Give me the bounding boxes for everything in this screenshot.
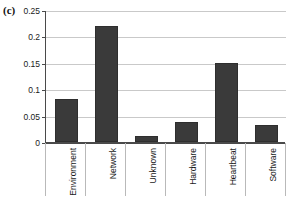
y-tick-label: 0 bbox=[35, 139, 40, 148]
y-tick-label: 0.2 bbox=[28, 33, 40, 42]
gridline bbox=[46, 11, 286, 12]
y-tick-label: 0.05 bbox=[23, 112, 40, 121]
y-tick-label: 0.1 bbox=[28, 86, 40, 95]
y-tick-mark bbox=[42, 37, 46, 38]
x-tick-label: Network bbox=[109, 148, 118, 179]
x-tick-label: Software bbox=[269, 148, 278, 182]
category-separator bbox=[165, 143, 166, 196]
bar bbox=[55, 99, 78, 142]
y-tick-mark bbox=[42, 117, 46, 118]
x-tick-label: Environment bbox=[69, 148, 78, 196]
category-separator bbox=[245, 143, 246, 196]
y-tick-mark bbox=[42, 11, 46, 12]
x-tick-label: Unknown bbox=[149, 148, 158, 183]
y-tick-mark bbox=[42, 90, 46, 91]
y-tick-label: 0.25 bbox=[23, 7, 40, 16]
bar bbox=[135, 136, 158, 142]
gridline bbox=[46, 117, 286, 118]
gridline bbox=[46, 64, 286, 65]
plot-area: 00.050.10.150.20.25 bbox=[45, 11, 285, 143]
x-tick-label: Hardware bbox=[189, 148, 198, 185]
category-separator bbox=[85, 143, 86, 196]
bar bbox=[95, 26, 118, 142]
bar bbox=[175, 122, 198, 142]
bar bbox=[215, 63, 238, 142]
category-separator bbox=[125, 143, 126, 196]
y-tick-mark bbox=[42, 64, 46, 65]
figure-panel-c: (c) 00.050.10.150.20.25 EnvironmentNetwo… bbox=[0, 0, 297, 197]
category-separator bbox=[45, 143, 46, 196]
y-tick-label: 0.15 bbox=[23, 60, 40, 69]
x-tick-label: Heartbeat bbox=[229, 148, 238, 185]
category-separator bbox=[205, 143, 206, 196]
gridline bbox=[46, 90, 286, 91]
gridline bbox=[46, 37, 286, 38]
category-separator bbox=[285, 143, 286, 196]
panel-label: (c) bbox=[3, 4, 15, 16]
bar bbox=[255, 125, 278, 142]
